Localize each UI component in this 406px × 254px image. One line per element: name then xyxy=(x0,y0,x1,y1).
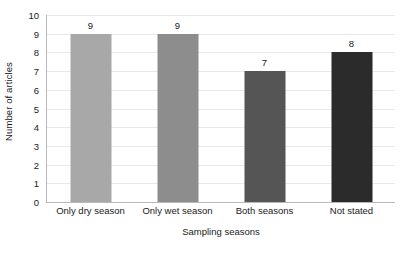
y-axis-title-text: Number of articles xyxy=(3,62,14,141)
bar-value-label: 8 xyxy=(349,38,354,49)
bar[interactable] xyxy=(70,34,111,202)
x-axis-tick-label: Both seasons xyxy=(236,205,294,216)
bar-value-label: 7 xyxy=(262,57,267,68)
y-axis-title: Number of articles xyxy=(0,0,16,202)
x-axis-tick-label: Only dry season xyxy=(56,205,125,216)
y-axis-tick-label: 7 xyxy=(34,66,39,77)
bar-slot: 9 xyxy=(134,15,221,202)
bar[interactable] xyxy=(244,71,285,202)
bar-slot: 7 xyxy=(221,15,308,202)
y-axis-tick-label: 0 xyxy=(34,197,39,208)
y-axis-tick-label: 3 xyxy=(34,140,39,151)
bar-chart-figure: Number of articles 012345678910 9978 Onl… xyxy=(0,0,406,254)
y-axis-tick-label: 5 xyxy=(34,103,39,114)
y-axis-tick-label: 2 xyxy=(34,159,39,170)
x-axis-tick-labels: Only dry seasonOnly wet seasonBoth seaso… xyxy=(47,205,395,221)
y-axis-tick-label: 1 xyxy=(34,178,39,189)
y-axis-tick-label: 4 xyxy=(34,122,39,133)
bar-slot: 8 xyxy=(308,15,395,202)
y-axis-tick-label: 6 xyxy=(34,84,39,95)
y-axis-tick-label: 8 xyxy=(34,47,39,58)
bar-slot: 9 xyxy=(47,15,134,202)
y-axis-tick-label: 9 xyxy=(34,28,39,39)
bar[interactable] xyxy=(331,52,372,202)
y-axis-tick-label: 10 xyxy=(28,10,39,21)
x-axis-tick-label: Only wet season xyxy=(142,205,212,216)
x-axis-title: Sampling seasons xyxy=(47,226,395,237)
bar-value-label: 9 xyxy=(175,20,180,31)
plot-area: 9978 xyxy=(47,15,395,202)
x-axis-baseline xyxy=(47,202,395,203)
bar[interactable] xyxy=(157,34,198,202)
bar-value-label: 9 xyxy=(88,20,93,31)
x-axis-tick-label: Not stated xyxy=(330,205,373,216)
y-axis-tick-labels: 012345678910 xyxy=(16,0,42,202)
